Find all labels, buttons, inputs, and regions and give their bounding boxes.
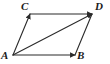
vertex-label-b: B [77, 50, 84, 61]
parallelogram-svg [0, 0, 110, 64]
vertex-label-a: A [1, 50, 8, 61]
segment-ac [13, 14, 30, 55]
vertex-label-d: D [95, 1, 103, 12]
parallelogram-figure: A B C D [0, 0, 110, 64]
vertex-label-c: C [21, 1, 28, 12]
